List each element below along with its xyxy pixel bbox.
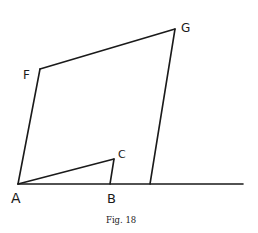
- figure-caption: Fig. 18: [106, 215, 136, 225]
- label-C: C: [118, 148, 126, 161]
- label-A: A: [11, 190, 21, 206]
- segment-CB: [110, 159, 114, 184]
- segment-FG: [40, 29, 175, 69]
- label-F: F: [23, 68, 30, 82]
- label-B: B: [107, 191, 116, 206]
- segment-G-base: [150, 29, 175, 184]
- segment-AF: [18, 69, 40, 184]
- geometry-figure: F G C A B Fig. 18: [0, 0, 258, 233]
- label-G: G: [181, 21, 190, 35]
- segment-AC: [18, 159, 114, 184]
